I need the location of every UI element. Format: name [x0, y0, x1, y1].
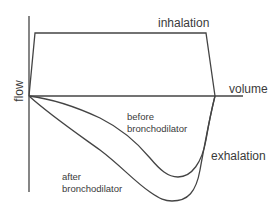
inhalation-label: inhalation: [158, 17, 209, 29]
after-bronchodilator-label: after bronchodilator: [62, 171, 122, 195]
diagram-graphics: [0, 0, 273, 211]
before-bronchodilator-curve: [29, 96, 215, 177]
y-axis-label: flow: [12, 76, 26, 106]
flow-volume-diagram: flow inhalation volume exhalation before…: [0, 0, 273, 211]
inhalation-curve: [29, 33, 215, 96]
exhalation-label: exhalation: [211, 150, 266, 162]
after-label-line1: after: [62, 171, 122, 183]
before-label-line2: bronchodilator: [127, 123, 187, 135]
after-label-line2: bronchodilator: [62, 183, 122, 195]
x-axis-label: volume: [229, 83, 268, 95]
before-label-line1: before: [127, 111, 187, 123]
before-bronchodilator-label: before bronchodilator: [127, 111, 187, 135]
